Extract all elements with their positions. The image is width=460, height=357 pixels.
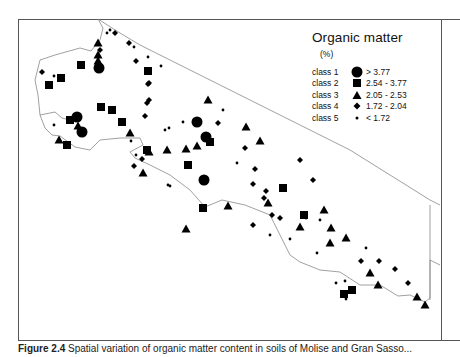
triangle-marker	[163, 146, 172, 154]
legend-row-class-5: class 5 < 1.72	[312, 112, 452, 124]
dot-marker	[133, 46, 136, 49]
square-marker	[63, 141, 71, 149]
dot-marker	[147, 56, 150, 59]
dot-marker	[160, 65, 163, 68]
square-marker	[57, 74, 65, 82]
dot-marker	[289, 238, 292, 241]
square-marker	[66, 116, 74, 124]
legend-unit: (%)	[320, 49, 452, 59]
triangle-marker	[193, 142, 202, 150]
triangle-marker	[126, 129, 135, 137]
square-marker	[206, 138, 214, 146]
dot-marker	[344, 280, 347, 283]
dot-marker	[53, 75, 56, 78]
triangle-icon	[350, 90, 364, 100]
triangle-marker	[327, 224, 336, 232]
diamond-marker	[392, 266, 398, 272]
dot-marker	[269, 234, 272, 237]
diamond-marker	[405, 280, 411, 286]
square-marker	[199, 204, 207, 212]
triangle-marker	[342, 234, 351, 242]
diamond-marker	[242, 145, 248, 151]
diamond-marker	[139, 156, 145, 162]
caption-label: Figure 2.4	[18, 343, 65, 354]
dot-marker	[182, 121, 185, 124]
square-marker	[45, 81, 53, 89]
circle-icon	[350, 66, 364, 78]
dot-marker	[319, 219, 322, 222]
legend-rows: class 1 > 3.77 class 2 2.54 - 3.77 class…	[312, 66, 452, 124]
square-marker	[108, 106, 116, 114]
legend: Organic matter (%) class 1 > 3.77 class …	[312, 30, 452, 124]
legend-row-class-4: class 4 1.72 - 2.04	[312, 101, 452, 113]
square-marker	[118, 118, 126, 126]
triangle-marker	[94, 39, 103, 47]
diamond-marker	[250, 181, 256, 187]
circle-marker	[192, 117, 203, 128]
diamond-marker	[297, 157, 303, 163]
diamond-icon	[350, 102, 364, 110]
caption-text: Spatial variation of organic matter cont…	[68, 343, 412, 354]
legend-row-class-1: class 1 > 3.77	[312, 66, 452, 78]
dot-marker	[335, 282, 338, 285]
figure-caption: Figure 2.4 Spatial variation of organic …	[18, 343, 412, 354]
triangle-marker	[320, 206, 329, 214]
triangle-marker	[55, 136, 64, 144]
triangle-marker	[182, 225, 191, 233]
square-marker	[348, 286, 356, 294]
triangle-marker	[374, 281, 383, 289]
dot-marker	[168, 127, 171, 130]
dot-marker	[365, 247, 368, 250]
diamond-marker	[310, 177, 316, 183]
triangle-marker	[139, 169, 148, 177]
dot-marker	[109, 29, 112, 32]
legend-row-class-3: class 3 2.05 - 2.53	[312, 89, 452, 101]
diamond-marker	[126, 40, 132, 46]
diamond-marker	[269, 212, 275, 218]
dot-icon	[350, 115, 364, 121]
triangle-marker	[204, 96, 213, 104]
diamond-marker	[263, 188, 269, 194]
triangle-marker	[421, 301, 430, 309]
triangle-marker	[366, 269, 375, 277]
diamond-marker	[39, 69, 45, 75]
square-marker	[340, 290, 348, 298]
circle-marker	[199, 175, 210, 186]
dot-marker	[53, 124, 56, 127]
dot-marker	[236, 162, 239, 165]
triangle-marker	[74, 122, 83, 130]
triangle-marker	[256, 137, 265, 145]
square-marker	[77, 61, 85, 69]
diamond-marker	[252, 166, 258, 172]
diamond-marker	[358, 258, 364, 264]
dot-marker	[316, 252, 319, 255]
square-marker	[97, 103, 105, 111]
dot-marker	[135, 154, 138, 157]
square-marker	[144, 67, 152, 75]
legend-row-class-2: class 2 2.54 - 3.77	[312, 78, 452, 90]
square-marker	[184, 161, 192, 169]
diamond-marker	[277, 215, 283, 221]
diamond-marker	[376, 258, 382, 264]
diamond-marker	[131, 163, 137, 169]
triangle-marker	[182, 145, 191, 153]
diamond-marker	[250, 222, 256, 228]
dot-marker	[167, 184, 170, 187]
dot-marker	[130, 140, 133, 143]
diamond-marker	[133, 58, 139, 64]
triangle-marker	[296, 223, 305, 231]
dot-marker	[345, 298, 348, 301]
dot-marker	[305, 217, 308, 220]
diamond-marker	[142, 113, 148, 119]
triangle-marker	[224, 202, 233, 210]
diamond-marker	[215, 120, 221, 126]
diamond-marker	[261, 195, 267, 201]
dot-marker	[106, 32, 109, 35]
dot-marker	[164, 129, 167, 132]
square-marker	[279, 184, 287, 192]
square-icon	[350, 78, 364, 88]
dot-marker	[222, 109, 225, 112]
legend-title: Organic matter	[312, 30, 452, 45]
triangle-marker	[242, 123, 251, 131]
triangle-marker	[326, 239, 335, 247]
